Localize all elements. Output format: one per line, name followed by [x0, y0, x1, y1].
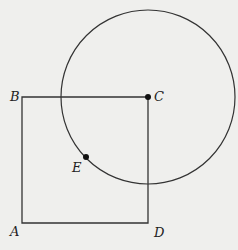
point-e-dot: [83, 154, 89, 160]
background: [0, 0, 238, 250]
label-b: B: [9, 89, 20, 104]
point-c-dot: [145, 94, 151, 100]
label-d: D: [153, 225, 165, 240]
geometry-diagram: B C E A D: [0, 0, 238, 250]
label-a: A: [9, 224, 19, 239]
label-c: C: [154, 89, 164, 104]
label-e: E: [71, 160, 82, 175]
